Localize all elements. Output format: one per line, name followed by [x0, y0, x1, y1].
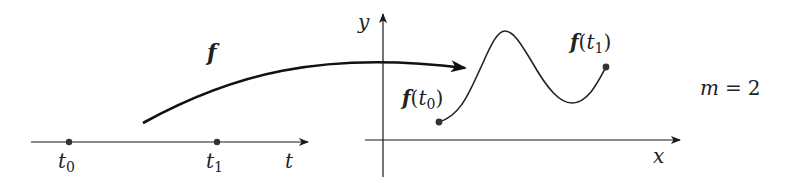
- t-axis-label: t: [285, 149, 294, 173]
- y-axis-label: y: [357, 10, 370, 34]
- t1-label: t1: [206, 149, 223, 175]
- start-point-label: f(t0): [400, 86, 443, 112]
- end-point: [603, 64, 610, 71]
- parametric-curve-diagram: t0 t1 t f y x f(t0) f(t1) m=2: [0, 0, 798, 183]
- parameter-axis: t0 t1 t: [31, 139, 308, 175]
- image-curve: f(t0) f(t1): [400, 30, 611, 125]
- t0-point: [66, 139, 72, 145]
- end-point-label: f(t1): [568, 30, 611, 56]
- t0-label: t0: [58, 149, 75, 175]
- x-axis-label: x: [653, 144, 664, 168]
- start-point: [436, 119, 443, 126]
- mapping-arrow: f: [143, 39, 465, 123]
- dimension-label: m=2: [700, 76, 760, 100]
- t1-point: [214, 139, 220, 145]
- mapping-label: f: [205, 39, 220, 65]
